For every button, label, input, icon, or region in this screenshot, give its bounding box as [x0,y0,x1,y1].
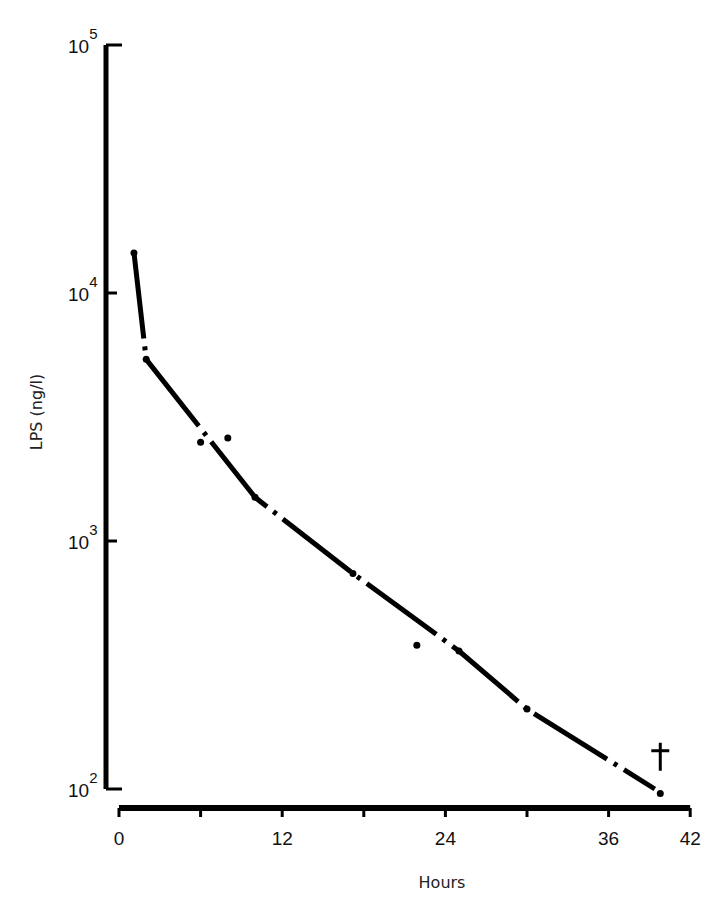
data-point [224,435,231,442]
data-point [349,570,356,577]
y-tick-label: 103 [68,521,97,553]
y-axis-title: LPS (ng/l) [27,374,46,450]
lps-decay-chart: 102103104105 012243642 LPS (ng/l) Hours [0,0,724,917]
data-point [413,642,420,649]
y-axis: 102103104105 [68,25,122,801]
data-point [252,494,259,501]
x-axis: 012243642 [114,808,701,849]
fitted-curve [134,253,655,789]
data-point [130,249,137,256]
data-point [143,356,150,363]
x-tick-label: 42 [680,828,701,849]
data-points [130,249,663,796]
x-axis-title: Hours [419,873,466,892]
y-tick-label: 102 [68,769,97,801]
y-tick-label: 105 [68,25,97,57]
x-tick-label: 24 [435,828,457,849]
data-point [197,439,204,446]
y-tick-label: 104 [68,273,97,305]
x-tick-label: 36 [598,828,619,849]
curve [134,253,655,789]
data-point [524,706,531,713]
data-point [657,790,664,797]
x-tick-label: 12 [272,828,293,849]
annotations [651,743,669,771]
data-point [456,648,463,655]
x-tick-label: 0 [114,828,125,849]
